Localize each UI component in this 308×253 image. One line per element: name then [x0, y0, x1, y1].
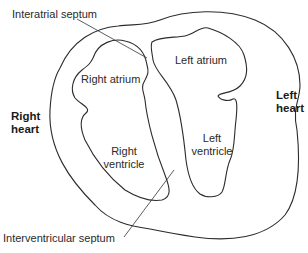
label-right-atrium: Right atrium — [81, 73, 140, 86]
label-right-heart-line2: heart — [11, 123, 40, 136]
heart-outer-outline — [50, 12, 300, 239]
label-left-heart-line1: Left — [276, 89, 304, 102]
label-interatrial-septum: Interatrial septum — [12, 8, 97, 21]
label-left-ventricle-line2: ventricle — [191, 145, 233, 158]
label-right-heart-line1: Right — [11, 110, 40, 123]
label-right-ventricle: Right ventricle — [101, 145, 147, 171]
label-left-atrium: Left atrium — [175, 54, 227, 67]
label-right-ventricle-line1: Right — [101, 145, 147, 158]
label-right-ventricle-line2: ventricle — [101, 158, 147, 171]
label-left-heart-line2: heart — [276, 102, 304, 115]
label-interventricular-septum: Interventricular septum — [3, 232, 115, 245]
label-left-ventricle-line1: Left — [191, 132, 233, 145]
label-left-heart: Left heart — [276, 89, 304, 115]
label-left-ventricle: Left ventricle — [191, 132, 233, 158]
interventricular-septum-leader — [124, 170, 174, 237]
heart-diagram — [0, 0, 308, 253]
label-right-heart: Right heart — [11, 110, 40, 136]
